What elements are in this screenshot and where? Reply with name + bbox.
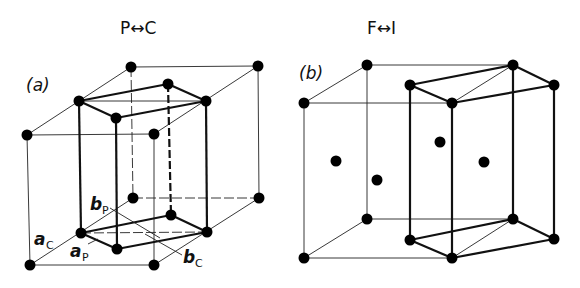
panel-a-conventional-cell	[27, 66, 259, 265]
svg-text:P: P	[82, 251, 89, 264]
lattice-diagram: P↔C F↔I (a) (b)	[0, 0, 580, 288]
vector-label-a-c: a C	[34, 229, 54, 252]
svg-text:a: a	[70, 241, 81, 261]
vector-label-b-p: b P	[90, 194, 109, 217]
svg-text:b: b	[90, 194, 102, 214]
vector-label-b-c: b C	[183, 247, 203, 270]
panel-a-title: P↔C	[120, 18, 156, 38]
svg-text:a: a	[34, 229, 45, 249]
svg-text:b: b	[183, 247, 195, 267]
panel-b-label: (b)	[299, 63, 323, 83]
panel-b-title: F↔I	[367, 18, 396, 38]
svg-text:P: P	[102, 204, 109, 217]
panel-a-label: (a)	[26, 75, 50, 95]
panel-a-atoms	[22, 61, 265, 271]
svg-text:C: C	[46, 239, 54, 252]
vector-label-a-p: a P	[70, 241, 89, 264]
svg-text:C: C	[195, 257, 203, 270]
panel-a-primitive-cell	[79, 84, 207, 255]
